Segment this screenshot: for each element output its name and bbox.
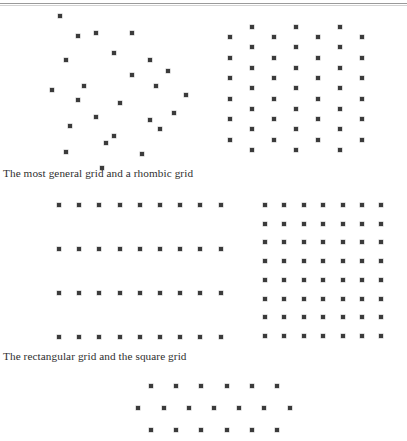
rhombic-lattice-dot	[316, 117, 320, 121]
hexagonal-lattice-dot	[262, 406, 266, 410]
hexagonal-lattice-dot	[174, 384, 178, 388]
rhombic-lattice-dot	[316, 138, 320, 142]
rhombic-lattice-dot	[228, 35, 232, 39]
hexagonal-lattice-dot	[174, 428, 178, 432]
rhombic-lattice-dot	[272, 76, 276, 80]
rhombic-lattice-dot	[250, 45, 254, 49]
hexagonal-lattice-dot	[225, 384, 229, 388]
square-lattice-dot	[263, 259, 267, 263]
rectangular-lattice-dot	[118, 247, 122, 251]
rhombic-lattice-dot	[360, 138, 364, 142]
rectangular-lattice-dot	[219, 335, 223, 339]
square-lattice-dot	[379, 259, 383, 263]
rhombic-lattice-dot	[338, 107, 342, 111]
figure-page: The most general grid and a rhombic grid…	[0, 0, 407, 441]
rectangular-lattice-dot	[158, 203, 162, 207]
square-lattice-dot	[360, 334, 364, 338]
rectangular-lattice-dot	[97, 335, 101, 339]
oblique-lattice-dot	[148, 58, 152, 62]
square-lattice-dot	[263, 334, 267, 338]
rhombic-lattice-dot	[250, 86, 254, 90]
rectangular-lattice-dot	[178, 247, 182, 251]
square-lattice-dot	[379, 315, 383, 319]
square-lattice-dot	[379, 240, 383, 244]
oblique-lattice-dot	[172, 111, 176, 115]
oblique-lattice-dot	[148, 118, 152, 122]
oblique-lattice-dot	[82, 84, 86, 88]
rhombic-lattice-dot	[228, 56, 232, 60]
square-lattice-dot	[379, 297, 383, 301]
hexagonal-lattice-dot	[149, 428, 153, 432]
square-lattice-dot	[341, 278, 345, 282]
square-lattice-dot	[263, 315, 267, 319]
square-lattice-dot	[341, 297, 345, 301]
hexagonal-lattice-dot	[149, 384, 153, 388]
oblique-lattice-dot	[50, 88, 54, 92]
rhombic-lattice-dot	[360, 35, 364, 39]
hexagonal-lattice-dot	[250, 428, 254, 432]
square-lattice-dot	[321, 240, 325, 244]
square-lattice-dot	[321, 278, 325, 282]
oblique-lattice-dot	[94, 31, 98, 35]
rectangular-lattice-dot	[178, 335, 182, 339]
rhombic-lattice-dot	[360, 117, 364, 121]
square-lattice-dot	[341, 240, 345, 244]
square-lattice-dot	[282, 297, 286, 301]
rhombic-lattice-dot	[272, 138, 276, 142]
rectangular-lattice-dot	[77, 335, 81, 339]
square-lattice-dot	[341, 315, 345, 319]
hexagonal-lattice-dot	[199, 428, 203, 432]
rhombic-lattice-dot	[294, 127, 298, 131]
caption-general-rhombic: The most general grid and a rhombic grid	[3, 167, 193, 180]
square-lattice-dot	[321, 334, 325, 338]
rectangular-lattice-dot	[178, 291, 182, 295]
square-lattice-dot	[360, 297, 364, 301]
hexagonal-lattice-dot	[288, 406, 292, 410]
rhombic-lattice-dot	[338, 66, 342, 70]
top-rule	[0, 3, 407, 4]
square-lattice-dot	[282, 259, 286, 263]
rhombic-lattice-dot	[294, 25, 298, 29]
square-lattice-dot	[379, 203, 383, 207]
rectangular-lattice-dot	[158, 335, 162, 339]
rhombic-lattice-dot	[316, 56, 320, 60]
oblique-lattice-dot	[166, 69, 170, 73]
square-lattice-dot	[379, 334, 383, 338]
square-lattice-dot	[302, 240, 306, 244]
rhombic-lattice-dot	[272, 35, 276, 39]
rhombic-lattice-dot	[228, 97, 232, 101]
rectangular-lattice-dot	[198, 247, 202, 251]
rectangular-lattice-dot	[219, 291, 223, 295]
square-lattice-dot	[282, 222, 286, 226]
rectangular-lattice-dot	[198, 291, 202, 295]
rhombic-lattice-dot	[360, 97, 364, 101]
rhombic-lattice-dot	[294, 86, 298, 90]
rectangular-lattice-dot	[198, 335, 202, 339]
oblique-lattice-dot	[76, 34, 80, 38]
square-lattice-dot	[282, 240, 286, 244]
rhombic-lattice-dot	[316, 97, 320, 101]
rhombic-lattice-dot	[228, 138, 232, 142]
rectangular-lattice-dot	[118, 335, 122, 339]
rectangular-lattice-dot	[198, 203, 202, 207]
rhombic-lattice-dot	[360, 56, 364, 60]
rectangular-lattice-dot	[77, 203, 81, 207]
square-lattice-dot	[263, 203, 267, 207]
square-lattice-dot	[321, 222, 325, 226]
rhombic-lattice-dot	[250, 107, 254, 111]
hexagonal-lattice-dot	[136, 406, 140, 410]
rhombic-lattice-dot	[338, 86, 342, 90]
square-lattice-dot	[302, 334, 306, 338]
rectangular-lattice-dot	[77, 247, 81, 251]
oblique-lattice-dot	[140, 152, 144, 156]
rhombic-lattice-dot	[250, 148, 254, 152]
square-lattice-dot	[302, 278, 306, 282]
square-lattice-dot	[360, 278, 364, 282]
square-lattice-dot	[360, 222, 364, 226]
square-lattice-dot	[360, 315, 364, 319]
square-lattice-dot	[321, 203, 325, 207]
oblique-lattice-dot	[112, 134, 116, 138]
rhombic-lattice-dot	[338, 148, 342, 152]
hexagonal-lattice-dot	[162, 406, 166, 410]
hexagonal-lattice-dot	[187, 406, 191, 410]
